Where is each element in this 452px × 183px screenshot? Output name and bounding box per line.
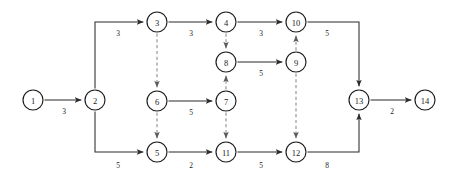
node-2[interactable]: 2: [85, 90, 105, 110]
edge-weight-3-4: 3: [189, 29, 193, 38]
node-label-7: 7: [224, 97, 228, 107]
node-8[interactable]: 8: [216, 52, 236, 72]
node-layer: 1234567891011121314: [23, 12, 435, 162]
edge-weight-2-3: 3: [116, 29, 120, 38]
node-14[interactable]: 14: [415, 90, 435, 110]
network-diagram: 333355258255 1234567891011121314: [0, 0, 452, 183]
node-label-9: 9: [294, 58, 298, 68]
node-13[interactable]: 13: [349, 90, 369, 110]
node-12[interactable]: 12: [286, 142, 306, 162]
node-label-14: 14: [421, 96, 430, 106]
node-label-2: 2: [93, 96, 97, 106]
edge-10-to-13: [308, 22, 360, 86]
edge-weight-2-5: 5: [116, 161, 120, 170]
node-3[interactable]: 3: [147, 12, 167, 32]
node-label-1: 1: [31, 96, 35, 106]
node-label-11: 11: [222, 148, 230, 158]
edge-weight-6-7: 5: [189, 108, 193, 117]
edge-weight-11-12: 5: [259, 161, 263, 170]
edge-weight-13-14: 2: [390, 107, 394, 116]
node-label-13: 13: [355, 96, 364, 106]
node-1[interactable]: 1: [23, 90, 43, 110]
edge-12-to-13: [308, 114, 360, 152]
node-label-5: 5: [155, 148, 159, 158]
node-label-12: 12: [292, 148, 301, 158]
node-label-8: 8: [224, 58, 228, 68]
edge-weight-5-11: 2: [189, 161, 193, 170]
node-6[interactable]: 6: [147, 91, 167, 111]
edge-weight-1-2: 3: [62, 107, 66, 116]
node-4[interactable]: 4: [216, 12, 236, 32]
node-label-3: 3: [155, 18, 159, 28]
edge-2-to-5: [95, 112, 143, 153]
edge-weight-12-13: 8: [325, 161, 329, 170]
node-5[interactable]: 5: [147, 142, 167, 162]
graph-canvas: 333355258255 1234567891011121314: [0, 0, 452, 183]
node-label-6: 6: [155, 97, 159, 107]
node-11[interactable]: 11: [216, 142, 236, 162]
edge-weight-10-13: 5: [325, 29, 329, 38]
edge-layer: [45, 22, 412, 152]
node-label-10: 10: [292, 18, 301, 28]
node-7[interactable]: 7: [216, 91, 236, 111]
node-10[interactable]: 10: [286, 12, 306, 32]
edge-weight-8-9: 5: [259, 69, 263, 78]
edge-weight-4-10: 3: [259, 29, 263, 38]
node-9[interactable]: 9: [286, 52, 306, 72]
